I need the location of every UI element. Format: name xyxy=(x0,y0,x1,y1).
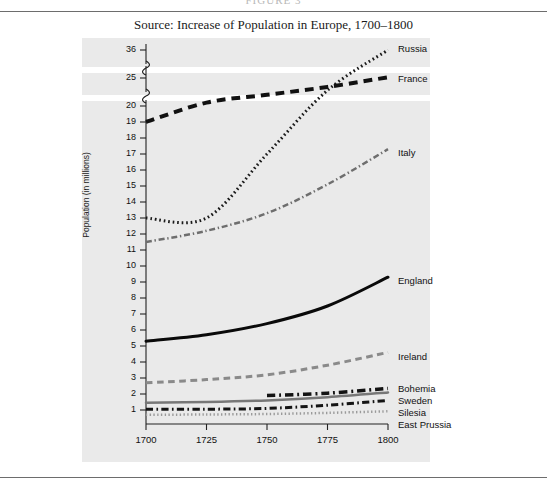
top-rule xyxy=(0,11,547,12)
x-tick-label: 1700 xyxy=(128,434,164,445)
series-line-russia xyxy=(146,50,388,223)
x-tick-label: 1725 xyxy=(189,434,225,445)
x-tick-label: 1800 xyxy=(370,434,406,445)
y-tick-label: 4 xyxy=(110,357,136,366)
y-tick-label: 19 xyxy=(110,117,136,126)
chart-panel: Population (in millions) 123456789101112… xyxy=(82,38,430,462)
series-label-italy: Italy xyxy=(398,147,415,158)
y-tick-label: 25 xyxy=(110,73,136,82)
y-tick-label: 13 xyxy=(110,213,136,222)
y-tick-label: 3 xyxy=(110,373,136,382)
y-tick-label: 12 xyxy=(110,229,136,238)
y-tick-label: 20 xyxy=(110,101,136,110)
figure-caption: Source: Increase of Population in Europe… xyxy=(0,17,547,33)
series-label-france: France xyxy=(398,73,428,84)
series-label-ireland: Ireland xyxy=(398,351,427,362)
series-line-england xyxy=(146,277,388,341)
series-label-bohemia: Bohemia xyxy=(398,383,436,394)
series-label-sweden: Sweden xyxy=(398,395,432,406)
y-tick-label: 2 xyxy=(110,389,136,398)
y-tick-label: 18 xyxy=(110,133,136,142)
running-head: FIGURE 3 xyxy=(0,0,547,5)
y-tick-label: 1 xyxy=(110,405,136,414)
y-tick-label: 17 xyxy=(110,149,136,158)
series-line-france xyxy=(146,77,388,122)
x-ticks xyxy=(146,424,388,430)
axes xyxy=(143,44,389,424)
y-tick-label: 14 xyxy=(110,197,136,206)
y-tick-label: 10 xyxy=(110,261,136,270)
y-tick-label: 6 xyxy=(110,325,136,334)
series-line-italy xyxy=(146,149,388,242)
x-tick-label: 1750 xyxy=(249,434,285,445)
series-label-england: England xyxy=(398,275,433,286)
y-tick-label: 15 xyxy=(110,181,136,190)
figure-page: FIGURE 3 Source: Increase of Population … xyxy=(0,0,547,485)
series-line-ireland xyxy=(146,352,388,382)
y-ticks xyxy=(140,50,146,410)
x-tick-label: 1775 xyxy=(310,434,346,445)
y-tick-label: 7 xyxy=(110,309,136,318)
y-tick-label: 36 xyxy=(110,45,136,54)
series-group xyxy=(146,50,388,415)
y-tick-label: 11 xyxy=(110,245,136,254)
y-tick-label: 8 xyxy=(110,293,136,302)
series-label-east-prussia: East Prussia xyxy=(398,419,451,430)
y-tick-label: 16 xyxy=(110,165,136,174)
series-line-east-prussia xyxy=(146,411,388,415)
y-tick-label: 5 xyxy=(110,341,136,350)
y-tick-label: 9 xyxy=(110,277,136,286)
series-label-silesia: Silesia xyxy=(398,407,426,418)
series-label-russia: Russia xyxy=(398,43,427,54)
bottom-rule xyxy=(0,477,547,478)
